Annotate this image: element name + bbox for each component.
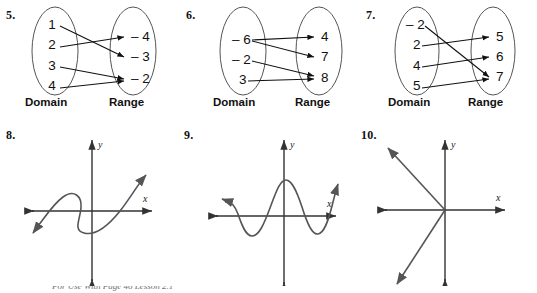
problem-7-mapping-diagram: – 2 2 4 5 5 6 7 [360, 2, 537, 102]
range-value-5: 5 [496, 29, 504, 44]
problem-10-graph: x y [357, 118, 537, 286]
range-value-neg3: – 3 [131, 49, 150, 64]
y-axis-label: y [97, 139, 103, 150]
x-axis-label: x [142, 193, 148, 204]
problem-6-domain-label: Domain [213, 96, 255, 108]
problem-6-mapping-diagram: – 6 – 2 3 4 7 8 [180, 2, 360, 102]
ray-upper-left [388, 148, 445, 210]
arrow-3-to-neg2 [60, 67, 124, 79]
arrow-neg2-to-8 [252, 61, 314, 76]
arrow-4-to-6 [422, 57, 489, 67]
range-value-4: 4 [321, 29, 329, 44]
arrow-neg6-to-4 [252, 37, 314, 40]
problem-9-graph: x y [178, 118, 358, 286]
range-value-7: 7 [496, 69, 504, 84]
bottom-cutoff-strip: For Use With Page 46 Lesson 2.1 [0, 286, 537, 293]
y-axis-label: y [289, 139, 295, 150]
problem-6-panel: 6. – 6 – 2 3 4 7 8 Domain Range [180, 0, 360, 115]
range-value-neg2: – 2 [131, 71, 150, 86]
problem-8-graph: x y [0, 118, 180, 286]
problem-6-range-label: Range [295, 96, 330, 108]
problem-5-domain-label: Domain [25, 96, 67, 108]
curve-wave [225, 180, 338, 236]
domain-value-neg6: – 6 [232, 32, 251, 47]
domain-value-2: 2 [48, 37, 56, 52]
x-axis-label: x [495, 192, 501, 203]
domain-value-3: 3 [239, 72, 247, 87]
problem-8-panel: 8. x y [0, 118, 180, 286]
problem-7-panel: 7. – 2 2 4 5 5 6 7 Domain Range [360, 0, 537, 115]
domain-value-neg2: – 2 [232, 52, 251, 67]
problem-9-panel: 9. x y [178, 118, 358, 286]
range-value-6: 6 [496, 49, 504, 64]
y-axis-label: y [450, 139, 456, 150]
curve-s-shape [34, 175, 146, 234]
problem-7-range-label: Range [468, 96, 503, 108]
bottom-note: For Use With Page 46 Lesson 2.1 [52, 286, 173, 291]
domain-value-4: 4 [48, 78, 56, 93]
range-value-neg4: – 4 [131, 29, 150, 44]
range-ellipse [296, 7, 342, 95]
problem-7-domain-label: Domain [388, 96, 430, 108]
problem-10-panel: 10. x y [357, 118, 537, 286]
ray-lower-left [397, 210, 445, 284]
problem-5-panel: 5. 1 2 3 4 – 4 – 3 – 2 Domain Range [0, 0, 180, 115]
range-ellipse [471, 7, 515, 95]
arrow-2-to-neg4 [60, 37, 124, 47]
domain-value-neg2: – 2 [406, 17, 425, 32]
range-value-8: 8 [321, 70, 329, 85]
curve-wave-left-arrow [222, 199, 228, 201]
domain-value-3: 3 [48, 58, 56, 73]
arrow-neg6-to-7 [252, 41, 314, 57]
range-value-7: 7 [321, 49, 329, 64]
arrow-2-to-5 [422, 37, 489, 46]
domain-value-4: 4 [413, 58, 421, 73]
domain-value-1: 1 [48, 17, 56, 32]
domain-value-5: 5 [413, 78, 421, 93]
arrow-neg2-to-7 [425, 26, 489, 77]
problem-5-mapping-diagram: 1 2 3 4 – 4 – 3 – 2 [0, 2, 180, 102]
arrow-3-to-8 [248, 79, 314, 81]
domain-value-2: 2 [413, 37, 421, 52]
problem-5-range-label: Range [109, 96, 144, 108]
